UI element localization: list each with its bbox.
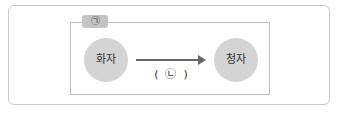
speaker-node: 화자	[84, 38, 128, 82]
listener-node: 청자	[214, 38, 258, 82]
arrow-line	[136, 59, 200, 61]
tag-label: ㉠	[82, 15, 108, 28]
arrow-head-icon	[198, 55, 206, 65]
arrow-label: ( ㉡ )	[136, 65, 206, 81]
